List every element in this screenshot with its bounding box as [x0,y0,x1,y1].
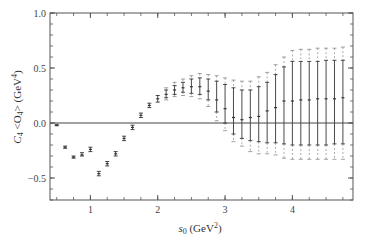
x-axis-label: s0 (GeV2) [178,221,221,236]
data-point [189,76,193,97]
data-point [139,113,143,117]
data-point [105,162,109,166]
data-point [240,81,244,146]
data-point [265,72,269,153]
data-point [332,48,336,159]
data-point [80,153,84,156]
y-tick-label: −0.5 [28,173,46,184]
data-point [63,146,67,148]
x-tick-label: 3 [223,204,228,215]
data-point [114,152,118,156]
data-point [130,125,134,129]
data-point [290,50,294,159]
data-point [248,81,252,151]
data-point [307,49,311,159]
data-point [147,103,151,107]
x-tick-label: 1 [88,204,93,215]
data-point [316,48,320,159]
data-point [173,82,177,96]
data-point [215,76,219,121]
data-point [55,125,59,126]
chart: −0.50.00.51.01234 s0 (GeV2) C4 <O4> (GeV… [0,0,369,242]
data-point [341,47,345,159]
data-point [257,77,261,154]
data-point [198,74,202,99]
axes: −0.50.00.51.01234 [28,8,353,216]
data-point [72,156,76,158]
y-axis-label: C4 <O4> (GeV4) [10,70,25,144]
y-tick-label: 0.0 [34,118,47,129]
data-point [156,96,160,103]
x-tick-label: 4 [290,204,295,215]
data-point [282,57,286,158]
data-point [274,65,278,155]
plot-frame [50,13,353,200]
data-point [122,136,126,140]
y-tick-label: 0.5 [34,63,47,74]
plot-area [55,47,345,176]
data-point [164,88,168,100]
data-point [324,48,328,159]
data-point [231,80,235,142]
data-point [97,171,101,175]
x-tick-label: 2 [155,204,160,215]
data-point [299,49,303,159]
y-tick-label: 1.0 [34,8,47,19]
data-point [181,79,185,96]
data-point [88,147,92,151]
data-point [206,75,210,107]
